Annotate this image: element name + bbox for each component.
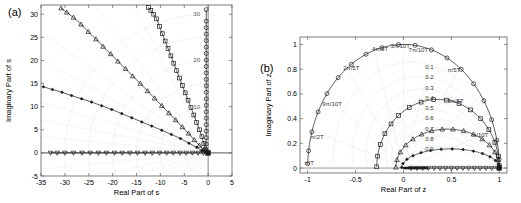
branch-diamond-filled-marker [481,152,484,155]
panel-a-ylabel: Imaginary Part of s [4,59,13,122]
z-damping-label-0.1: 0.1 [425,64,434,70]
labels-a: -35-30-25-20-15-10-505-50510152025301020… [4,10,234,197]
branch-diamond-filled-marker [51,88,54,91]
open-loop-pole-cluster [204,150,208,154]
xtick-label-a-7: 0 [206,179,210,186]
branch-diamond-filled-marker [472,150,475,153]
branch-diamond-filled-marker [130,116,133,119]
z-damping-label-0.2: 0.2 [425,74,434,80]
branch-diamond-filled-marker [80,97,83,100]
branch-diamond-filled-marker [100,104,103,107]
branch-diamond-filled-marker [140,120,143,123]
z-frequency-curve-0.9 [312,130,401,167]
branch-triangle-marker [59,6,64,10]
xtick-label-a-8: 5 [230,179,234,186]
branch-diamond-filled-marker [170,133,173,136]
branch-diamond-filled-marker [110,108,113,111]
branch-diamond-filled-marker [120,112,123,115]
wn-grid-label-10: 10 [193,103,200,110]
data-a [42,5,211,155]
xtick-label-a-4: -15 [131,179,141,186]
ytick-label-a-6: 25 [30,34,38,41]
branch-diamond-filled-marker [179,137,182,140]
z-damping-curve-0.8 [401,137,500,169]
xtick-label-b-4: 1 [497,176,501,183]
branch-diamond-filled-marker [412,154,415,157]
z-frequency-label-0: π/T [304,160,314,166]
ytick-label-a-7: 30 [30,11,38,18]
xtick-label-a-1: -30 [60,179,70,186]
ytick-label-a-5: 20 [30,57,38,64]
z-damping-curve-0.9 [403,147,499,168]
wn-grid-label-20: 20 [193,56,200,63]
branch-diamond-filled-markers [400,147,501,168]
ytick-label-b-4: 0.8 [287,66,297,73]
z-frequency-label-7: π/5T [447,67,460,73]
z-frequency-label-5: 3π/10T [390,43,410,49]
xtick-label-b-1: -0.5 [350,176,362,183]
z-frequency-label-3: 2π/5T [343,65,359,71]
ytick-label-a-0: -5 [32,173,38,180]
z-damping-curve-0.1 [333,62,499,168]
branch-diamond-filled-marker [420,151,423,154]
damping-ray-0.9 [83,0,208,153]
panel-b-plot: -1-0.500.5100.20.40.60.81π/Tπ/2T9π/10T2π… [258,0,521,203]
xtick-label-b-2: 0 [402,176,406,183]
z-frequency-label-1: π/2T [311,134,324,140]
panel-a-plot: -35-30-25-20-15-10-505-50510152025301020… [0,0,258,203]
xtick-label-a-3: -20 [108,179,118,186]
ytick-label-b-2: 0.4 [287,115,297,122]
panel-a-tag: (a) [8,6,21,18]
z-frequency-label-9: π/10T [472,132,488,138]
z-damping-label-0.8: 0.8 [425,136,434,142]
branch-diamond-filled-line [43,87,202,151]
branch-diamond-filled-marker [160,129,163,132]
xtick-label-a-5: -10 [155,179,165,186]
z-damping-label-0.5: 0.5 [425,105,434,111]
z-damping-label-0.7: 0.7 [425,126,434,132]
branch-diamond-filled-marker [70,94,73,97]
ytick-label-b-5: 1 [293,41,297,48]
panel-b-ylabel: Imaginary Part of z [264,73,273,136]
z-frequency-label-6: 7π/10T [409,47,429,53]
branch-diamond-filled-marker [188,142,191,145]
panel-b-xlabel: Real Part of z [381,185,427,194]
z-frequency-label-2: 9π/10T [322,101,342,107]
xtick-label-b-0: -1 [305,176,311,183]
xtick-label-a-2: -25 [84,179,94,186]
branch-diamond-filled-marker [61,91,64,94]
xtick-label-b-3: 0.5 [447,176,457,183]
branch-diamond-filled-marker [440,148,443,151]
z-frequency-curve-0.6 [374,51,403,165]
ytick-label-a-2: 5 [34,126,38,133]
xtick-label-a-0: -35 [36,179,46,186]
ytick-label-a-4: 15 [30,80,38,87]
ytick-label-b-0: 0 [293,165,297,172]
branch-square-markers [147,5,208,151]
branch-diamond-filled-marker [150,125,153,128]
figure-root: (a) -35-30-25-20-15-10-505-5051015202530… [0,0,521,203]
panel-b-z-plane: (b) -1-0.500.5100.20.40.60.81π/Tπ/2T9π/1… [258,0,521,203]
z-damping-label-0.3: 0.3 [425,85,434,91]
damping-ray-0.1 [0,125,208,153]
z-frequency-label-4: 4π/5T [372,46,388,52]
ytick-label-b-1: 0.2 [287,140,297,147]
terminal-pole-marker [497,166,501,170]
z-damping-label-0.4: 0.4 [425,95,434,101]
branch-diamond-filled-marker [42,85,45,88]
z-damping-label-0.6: 0.6 [425,115,434,121]
z-frequency-label-8: 3π/5T [448,98,464,104]
ytick-label-a-1: 0 [34,149,38,156]
panel-b-tag: (b) [260,62,273,74]
z-frequency-curve-0.7 [347,68,402,165]
panel-a-s-plane: (a) -35-30-25-20-15-10-505-5051015202530… [0,0,258,203]
xtick-label-a-6: -5 [181,179,187,186]
damping-ray-0.6 [0,0,208,153]
panel-a-xlabel: Real Part of s [114,188,160,197]
wn-grid-label-30: 30 [193,10,200,17]
damping-ray-0.8 [36,0,208,153]
z-damping-label-0.9: 0.9 [425,146,434,152]
branch-diamond-filled-marker [451,147,454,150]
ytick-label-b-3: 0.6 [287,90,297,97]
ytick-label-a-3: 10 [30,103,38,110]
